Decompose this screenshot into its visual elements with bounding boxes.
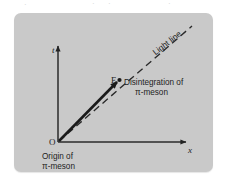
origin-caption-line1: Origin of (42, 152, 73, 161)
origin-label: O (49, 138, 56, 147)
page-text-remnant: · · · · (0, 0, 229, 11)
event-label: E (111, 76, 117, 85)
disintegration-caption-line2: π-meson (135, 89, 183, 98)
disintegration-caption-line1: Disintegration of (124, 78, 183, 87)
remnant-fragment: · (168, 0, 171, 8)
spacetime-diagram-panel: t x O E Origin of π-meson Disintegration… (14, 13, 213, 172)
remnant-fragment: · (92, 0, 95, 8)
event-point-E (117, 78, 121, 82)
pi-meson-worldline (59, 82, 117, 141)
remnant-fragment: · (108, 0, 111, 8)
origin-caption: Origin of π-meson (42, 153, 75, 171)
disintegration-caption: Disintegration of π-meson (124, 79, 183, 97)
origin-caption-line2: π-meson (42, 163, 75, 172)
remnant-fragment: · (24, 1, 27, 9)
t-axis-label: t (52, 46, 55, 55)
x-axis-label: x (188, 146, 192, 155)
